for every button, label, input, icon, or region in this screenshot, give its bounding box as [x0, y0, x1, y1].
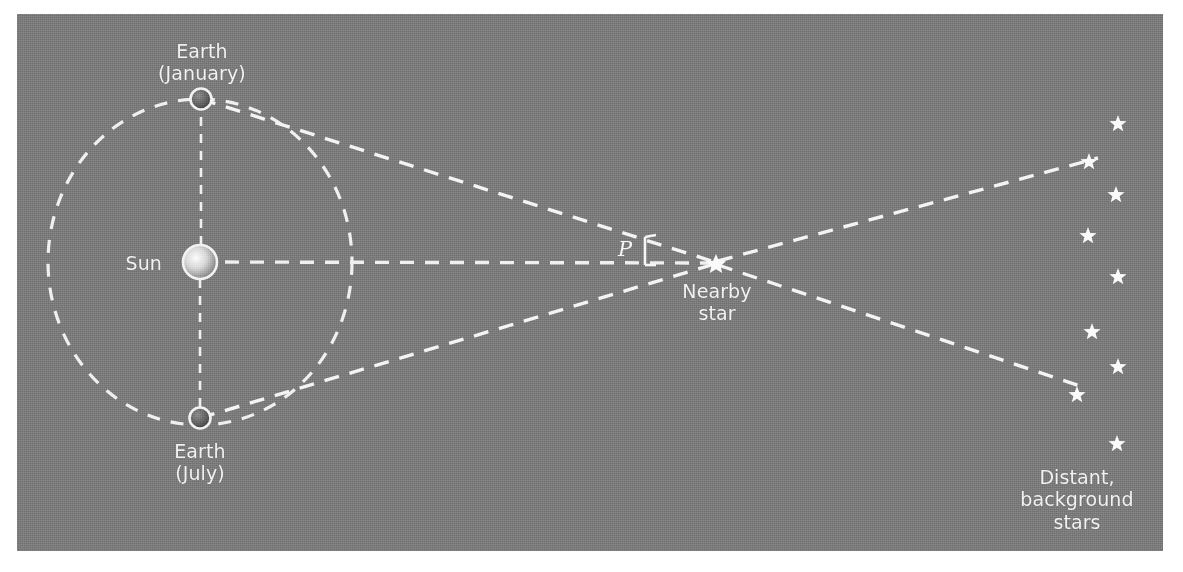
earth-january-body — [191, 89, 212, 110]
sightline-january-to-star — [201, 99, 718, 263]
background-star — [1109, 268, 1126, 284]
background-star — [1108, 435, 1125, 451]
background-star — [1107, 186, 1124, 202]
background-star — [1068, 386, 1085, 402]
nearby-star-glyph — [706, 254, 726, 273]
label-earth-january: Earth (January) — [122, 40, 282, 85]
label-earth-july: Earth (July) — [120, 440, 280, 485]
earth-july-body — [190, 408, 211, 429]
background-star — [1079, 227, 1096, 243]
background-star — [1109, 358, 1126, 374]
background-star — [1109, 115, 1126, 131]
background-star — [1083, 323, 1100, 339]
background-star — [1080, 153, 1097, 169]
label-distant-background-stars: Distant, background stars — [997, 466, 1157, 533]
sun-body — [183, 245, 217, 279]
diagram-panel: Earth (January) Earth (July) Sun Nearby … — [17, 14, 1163, 551]
figure-stage: Earth (January) Earth (July) Sun Nearby … — [0, 0, 1183, 572]
sightline-sun-to-star — [200, 262, 716, 263]
background-star-field — [1068, 115, 1126, 451]
label-parallax-angle: P — [618, 237, 632, 261]
label-nearby-star: Nearby star — [637, 280, 797, 325]
sightline-star-to-upper-background — [718, 158, 1098, 261]
parallax-angle-bracket — [645, 235, 656, 265]
label-sun: Sun — [57, 252, 162, 274]
